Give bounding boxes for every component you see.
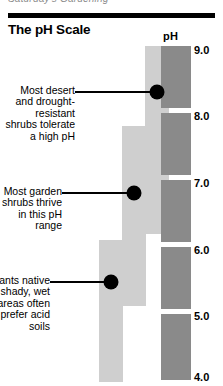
tick-label-5: 5.0 — [194, 310, 209, 322]
ph-scale-figure: Saturday's Gardening The pH Scale pH 9.0… — [0, 0, 223, 386]
tick-label-7: 7.0 — [194, 177, 209, 189]
scale-segment-8-7 — [161, 113, 191, 175]
callout-line: shrubs tolerate — [4, 119, 75, 130]
range-bar-garden — [122, 126, 146, 306]
tick-label-4: 4.0 — [194, 371, 209, 383]
scale-segment-5-4 — [161, 314, 191, 380]
callout-line: range — [0, 220, 62, 231]
leader-line-high-ph — [75, 91, 157, 93]
ph-scale-bar — [161, 46, 191, 382]
marker-dot-high-ph — [150, 85, 165, 100]
callout-acid: Plants native to shady, wet areas often … — [0, 275, 50, 332]
scale-segment-9-8 — [161, 46, 191, 108]
scale-segment-6-5 — [161, 247, 191, 309]
callout-line: soils — [0, 321, 50, 332]
callout-garden: Most garden shrubs thrive in this pH ran… — [0, 186, 62, 232]
callout-high-ph: Most desert and drought- resistant shrub… — [4, 85, 75, 142]
leader-line-garden — [62, 192, 134, 194]
callout-line: prefer acid — [0, 309, 50, 320]
tick-label-6: 6.0 — [194, 244, 209, 256]
tick-label-8: 8.0 — [194, 110, 209, 122]
marker-dot-acid — [104, 275, 119, 290]
marker-dot-garden — [127, 186, 142, 201]
page-title: The pH Scale — [8, 22, 90, 37]
range-bar-acid — [99, 240, 123, 382]
callout-line: a high pH — [4, 131, 75, 142]
clipped-header-text: Saturday's Gardening — [8, 0, 208, 5]
leader-line-acid — [50, 281, 111, 283]
scale-segment-7-6 — [161, 180, 191, 242]
tick-label-9: 9.0 — [194, 44, 209, 56]
ph-axis-label: pH — [163, 30, 178, 42]
title-rule — [8, 13, 215, 18]
